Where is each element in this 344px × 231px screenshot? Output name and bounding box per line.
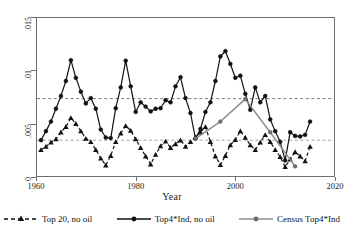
legend-label-top4ind-no-oil: Top4*Ind, no oil: [155, 214, 215, 224]
marker-top4ind-no-oil: [59, 94, 63, 98]
legend-label-top20-no-oil: Top 20, no oil: [42, 214, 92, 224]
marker-top4ind-no-oil: [218, 55, 222, 59]
marker-top20-no-oil: [218, 162, 223, 167]
marker-top4ind-no-oil: [293, 134, 297, 138]
legend-key-solid-circle-black: [117, 214, 151, 224]
marker-top20-no-oil: [138, 145, 143, 150]
marker-top20-no-oil: [203, 124, 208, 129]
marker-top4ind-no-oil: [238, 74, 242, 78]
marker-top4ind-no-oil: [94, 107, 98, 111]
marker-top4ind-no-oil: [253, 86, 257, 90]
marker-top20-no-oil: [233, 137, 238, 142]
legend-item-top4ind-no-oil[interactable]: Top4*Ind, no oil: [117, 214, 215, 224]
marker-top20-no-oil: [243, 135, 248, 140]
marker-top4ind-no-oil: [79, 90, 83, 94]
marker-top4ind-no-oil: [149, 110, 153, 114]
marker-top4ind-no-oil: [164, 98, 168, 102]
marker-top20-no-oil: [53, 137, 58, 142]
marker-top4ind-no-oil: [134, 110, 138, 114]
marker-top20-no-oil: [153, 152, 158, 157]
marker-top4ind-no-oil: [144, 105, 148, 109]
marker-top20-no-oil: [123, 123, 128, 128]
legend-key-solid-circle-gray: [239, 214, 273, 224]
marker-top4ind-no-oil: [109, 136, 113, 140]
x-tick-label: 1980: [116, 182, 156, 191]
marker-top4ind-no-oil: [119, 86, 123, 90]
marker-top4ind-no-oil: [154, 107, 158, 111]
marker-top4ind-no-oil: [39, 138, 43, 142]
marker-top4ind-no-oil: [84, 102, 88, 106]
marker-top4ind-no-oil: [263, 94, 267, 98]
marker-top4ind-no-oil: [89, 96, 93, 100]
x-axis-title: Year: [0, 191, 344, 202]
marker-top4ind-no-oil: [214, 79, 218, 83]
marker-top4ind-no-oil: [49, 120, 53, 124]
marker-census-top4ind: [218, 120, 222, 124]
marker-top4ind-no-oil: [209, 100, 213, 104]
marker-top20-no-oil: [68, 115, 73, 120]
marker-census-top4ind: [243, 97, 247, 101]
marker-top4ind-no-oil: [184, 96, 188, 100]
marker-top20-no-oil: [143, 154, 148, 159]
x-tick-label: 2000: [215, 182, 255, 191]
marker-top4ind-no-oil: [243, 92, 247, 96]
chart-root: 0.005.01.015 Year Top 20, no oil Top4*In…: [0, 0, 344, 231]
marker-census-top4ind: [194, 137, 198, 141]
marker-top4ind-no-oil: [114, 106, 118, 110]
marker-top20-no-oil: [292, 149, 297, 154]
marker-top20-no-oil: [213, 154, 218, 159]
legend-key-dashed-triangle: [4, 214, 38, 224]
legend-label-census-top4ind: Census Top4*Ind: [277, 214, 340, 224]
marker-top4ind-no-oil: [199, 127, 203, 131]
marker-top20-no-oil: [98, 156, 103, 161]
marker-top4ind-no-oil: [303, 133, 307, 137]
marker-top4ind-no-oil: [288, 130, 292, 134]
marker-top20-no-oil: [148, 162, 153, 167]
marker-top20-no-oil: [263, 132, 268, 137]
marker-top4ind-no-oil: [54, 107, 58, 111]
marker-top4ind-no-oil: [223, 49, 227, 53]
marker-top4ind-no-oil: [159, 106, 163, 110]
marker-top4ind-no-oil: [189, 111, 193, 115]
y-tick-label: .015: [25, 17, 33, 31]
marker-top20-no-oil: [163, 139, 168, 144]
legend-item-census-top4ind[interactable]: Census Top4*Ind: [239, 214, 340, 224]
marker-top20-no-oil: [302, 158, 307, 163]
marker-top4ind-no-oil: [69, 58, 73, 62]
marker-top4ind-no-oil: [298, 135, 302, 139]
marker-top4ind-no-oil: [44, 129, 48, 133]
marker-top20-no-oil: [272, 147, 277, 152]
marker-top4ind-no-oil: [74, 76, 78, 80]
marker-top4ind-no-oil: [139, 100, 143, 104]
marker-top20-no-oil: [133, 137, 138, 142]
y-tick-label: .01: [25, 70, 33, 80]
marker-top20-no-oil: [108, 153, 113, 158]
marker-top4ind-no-oil: [64, 79, 68, 83]
marker-top20-no-oil: [307, 144, 312, 149]
x-tick-label: 2020: [315, 182, 344, 191]
marker-top20-no-oil: [183, 144, 188, 149]
chart-legend: Top 20, no oil Top4*Ind, no oil Census T…: [0, 209, 344, 229]
marker-census-top4ind: [268, 130, 272, 134]
marker-top4ind-no-oil: [283, 159, 287, 163]
legend-item-top20-no-oil[interactable]: Top 20, no oil: [4, 214, 92, 224]
marker-top4ind-no-oil: [129, 84, 133, 88]
marker-top4ind-no-oil: [179, 75, 183, 79]
marker-census-top4ind: [293, 164, 297, 168]
x-tick-label: 1960: [16, 182, 56, 191]
marker-top20-no-oil: [63, 124, 68, 129]
marker-top20-no-oil: [223, 153, 228, 158]
marker-top4ind-no-oil: [233, 76, 237, 80]
marker-top20-no-oil: [238, 129, 243, 134]
marker-top4ind-no-oil: [169, 100, 173, 104]
marker-top4ind-no-oil: [174, 84, 178, 88]
marker-top4ind-no-oil: [228, 62, 232, 66]
marker-top4ind-no-oil: [273, 129, 277, 133]
marker-top20-no-oil: [93, 147, 98, 152]
y-tick-label: .005: [25, 124, 33, 138]
marker-top20-no-oil: [83, 136, 88, 141]
marker-top4ind-no-oil: [124, 59, 128, 63]
marker-top4ind-no-oil: [204, 110, 208, 114]
marker-top4ind-no-oil: [99, 128, 103, 132]
marker-top4ind-no-oil: [308, 120, 312, 124]
